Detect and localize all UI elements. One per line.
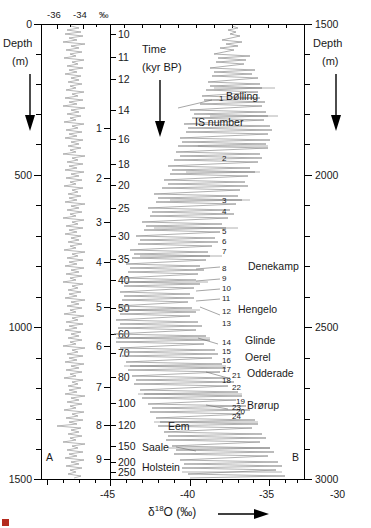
top-axis-unit-permil: ‰ xyxy=(99,10,109,20)
boelling-leader xyxy=(178,96,218,112)
is-number-5: 5 xyxy=(222,228,226,236)
is-leader-21 xyxy=(206,370,234,384)
is-number-caption: IS number xyxy=(195,117,243,128)
is-number-6: 6 xyxy=(222,238,226,246)
panel-a-trace xyxy=(41,24,109,480)
bottom-axis-tick--45: -45 xyxy=(100,489,115,500)
bottom-axis-title: δ18O (‰) xyxy=(148,505,196,518)
saale-leader xyxy=(176,443,202,455)
is-number-4: 4 xyxy=(222,208,226,216)
is-number-1: 1 xyxy=(219,95,223,103)
figure-root: -36 -34 ‰ 0 500 1000 1500 Depth ( xyxy=(0,0,371,528)
event-name-glinde: Glinde xyxy=(245,335,275,346)
left-axis-title-depth: Depth xyxy=(3,38,32,49)
event-name-denekamp: Denekamp xyxy=(248,261,299,272)
panel-b-label: B xyxy=(292,452,299,463)
left-depth-arrow xyxy=(20,74,40,132)
is-leader-12 xyxy=(200,305,226,319)
panel-a-label: A xyxy=(46,452,53,463)
is-number-13: 13 xyxy=(222,320,231,328)
bottom-axis-arrow xyxy=(218,508,270,520)
is-leader-23 xyxy=(206,402,234,416)
bottom-axis-title-text: O (‰) xyxy=(164,505,197,519)
bottom-axis-tick--35: -35 xyxy=(259,489,274,500)
left-axis-tick-0: 0 xyxy=(14,19,32,30)
stage-name-holstein: Holstein xyxy=(142,462,180,473)
delta-superscript: 18 xyxy=(155,504,164,513)
left-axis-tick-500: 500 xyxy=(4,170,32,181)
is-number-3: 3 xyxy=(222,197,226,205)
top-axis-tick--34: -34 xyxy=(73,10,87,20)
event-name-boelling: Bølling xyxy=(226,91,258,102)
is-number-16: 16 xyxy=(222,357,231,365)
right-axis-tick-2000: 2000 xyxy=(315,170,338,181)
top-axis-tick--36: -36 xyxy=(47,10,61,20)
right-axis-title-depth: Depth xyxy=(313,38,342,49)
is-number-22: 22 xyxy=(232,384,241,392)
right-depth-arrow xyxy=(326,74,346,132)
event-name-hengelo: Hengelo xyxy=(238,304,277,315)
right-axis-title-unit: (m) xyxy=(322,56,339,67)
event-name-odderade: Odderade xyxy=(247,368,294,379)
delta-symbol: δ xyxy=(148,505,155,519)
stage-name-eem: Eem xyxy=(168,421,190,432)
right-axis-tick-3000: 3000 xyxy=(315,474,338,485)
stage-name-saale: Saale xyxy=(142,442,169,453)
left-axis-title-unit: (m) xyxy=(12,56,29,67)
right-axis-tick-2500: 2500 xyxy=(315,322,338,333)
event-name-broerup: Brørup xyxy=(247,400,279,411)
bottom-axis-tick--30: -30 xyxy=(330,489,345,500)
left-axis-tick-1000: 1000 xyxy=(0,322,32,333)
left-axis-tick-1500: 1500 xyxy=(0,474,32,485)
bottom-axis-tick--40: -40 xyxy=(180,489,195,500)
is-leader-14 xyxy=(198,336,224,350)
right-axis-tick-1500: 1500 xyxy=(315,19,338,30)
event-name-oerel: Oerel xyxy=(245,352,271,363)
page-marker xyxy=(2,519,9,526)
is-number-2: 2 xyxy=(222,155,226,163)
